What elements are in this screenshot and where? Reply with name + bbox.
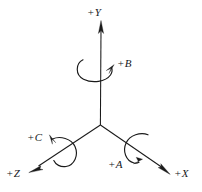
a-rotation-arc [125,134,148,164]
y-axis-label: +Y [87,7,101,18]
a-rotation-group [125,134,148,164]
x-axis-label: +X [174,168,189,179]
a-rotation-label: +A [108,159,123,170]
c-rotation-arc [53,138,77,167]
x-axis-arrowhead [158,164,170,175]
b-rotation-arc [77,60,112,82]
z-axis-label: +Z [6,168,20,179]
z-axis-shaft [39,125,101,166]
c-rotation-group [49,135,76,167]
b-rotation-group [77,60,114,82]
axes-vector-canvas [0,0,202,192]
b-rotation-arrowhead [106,65,114,74]
axis-orientation-diagram: +Y +B +C +A +Z +X [0,0,202,192]
y-axis-shaft [100,30,101,125]
axis-shafts-group [39,30,162,167]
b-rotation-label: +B [117,58,132,69]
z-axis-arrowhead [29,166,43,173]
c-rotation-arrowhead [49,135,55,144]
axis-arrowheads-group [29,21,170,175]
c-rotation-label: +C [27,132,43,143]
